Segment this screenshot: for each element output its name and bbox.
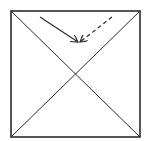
dashed-arrow	[80, 17, 112, 42]
solid-arrow	[40, 17, 78, 42]
diagram-canvas	[0, 0, 146, 141]
